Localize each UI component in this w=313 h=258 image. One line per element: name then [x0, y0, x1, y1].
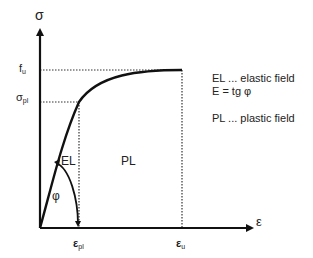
y-tick-fu: fu: [19, 62, 26, 75]
legend: EL ... elastic field E = tg φ PL ... pla…: [212, 72, 295, 125]
phi-angle-label: φ: [52, 189, 60, 203]
region-label-elastic: EL: [61, 154, 76, 168]
stress-strain-curve: [40, 70, 182, 228]
x-tick-eps-pl: εpl: [73, 237, 84, 251]
legend-item-elastic: EL ... elastic field: [212, 72, 295, 85]
region-label-plastic: PL: [121, 154, 136, 168]
y-tick-sigma-pl: σpl: [16, 91, 29, 105]
legend-item-plastic: PL ... plastic field: [212, 112, 295, 125]
x-tick-eps-u: εu: [176, 237, 185, 250]
axes: [40, 32, 250, 228]
y-axis-label: σ: [35, 7, 44, 23]
stress-strain-diagram: σ ε fu σpl εpl εu EL PL φ: [0, 0, 313, 258]
legend-item-modulus: E = tg φ: [212, 85, 295, 98]
x-axis-label: ε: [256, 214, 262, 229]
